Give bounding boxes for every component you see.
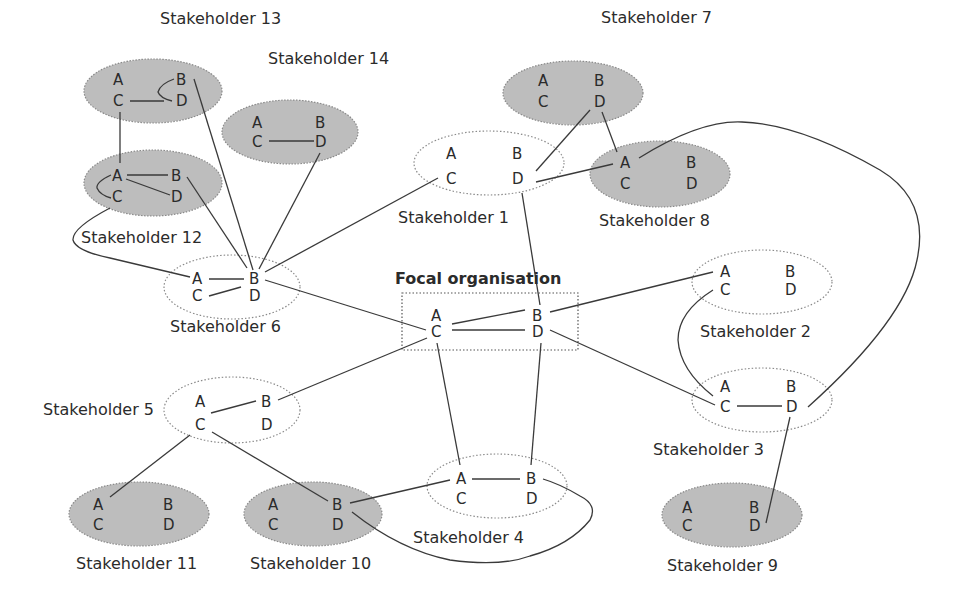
svg-text:D: D xyxy=(176,92,188,110)
svg-text:A: A xyxy=(720,263,731,281)
svg-text:A: A xyxy=(192,270,203,288)
svg-text:D: D xyxy=(249,287,261,305)
svg-text:B: B xyxy=(749,499,759,517)
svg-text:C: C xyxy=(720,281,730,299)
stakeholder-11-ellipse xyxy=(69,482,209,546)
stakeholder-10-label: Stakeholder 10 xyxy=(250,554,371,573)
svg-text:C: C xyxy=(682,517,692,535)
stakeholder-4-letters: A B C D xyxy=(456,470,538,508)
focal-organisation-letters: A B C D xyxy=(431,307,544,341)
stakeholder-12-ellipse xyxy=(84,150,222,216)
stakeholder-4-label: Stakeholder 4 xyxy=(413,528,524,547)
svg-text:B: B xyxy=(785,263,795,281)
svg-text:A: A xyxy=(720,378,731,396)
svg-text:B: B xyxy=(526,470,536,488)
svg-text:C: C xyxy=(620,175,630,193)
stakeholder-6-label: Stakeholder 6 xyxy=(170,317,281,336)
svg-text:D: D xyxy=(512,170,524,188)
stakeholder-14-ellipse xyxy=(222,100,358,164)
svg-text:A: A xyxy=(252,114,263,132)
svg-text:C: C xyxy=(112,188,122,206)
stakeholder-5-ellipse xyxy=(164,377,300,443)
svg-text:D: D xyxy=(163,516,175,534)
svg-text:A: A xyxy=(195,393,206,411)
stakeholder-13-ellipse xyxy=(84,59,222,123)
svg-text:D: D xyxy=(749,517,761,535)
svg-text:C: C xyxy=(113,92,123,110)
svg-text:C: C xyxy=(538,93,548,111)
svg-text:B: B xyxy=(512,145,522,163)
svg-text:A: A xyxy=(538,72,549,90)
stakeholder-network-diagram: A B C D A B C D A B C D A B C D A B C D … xyxy=(0,0,962,614)
stakeholder-8-label: Stakeholder 8 xyxy=(599,211,710,230)
svg-text:B: B xyxy=(171,167,181,185)
stakeholder-11-label: Stakeholder 11 xyxy=(76,554,197,573)
svg-text:C: C xyxy=(446,170,456,188)
stakeholder-1-ellipse xyxy=(414,131,564,195)
stakeholder-1-letters: A B C D xyxy=(446,145,524,188)
svg-text:A: A xyxy=(456,470,467,488)
svg-text:C: C xyxy=(195,416,205,434)
stakeholder-2-ellipse xyxy=(692,250,832,314)
svg-text:A: A xyxy=(113,71,124,89)
stakeholder-3-ellipse xyxy=(692,368,832,432)
svg-text:D: D xyxy=(785,281,797,299)
svg-text:C: C xyxy=(252,133,262,151)
svg-text:D: D xyxy=(171,188,183,206)
svg-text:A: A xyxy=(682,499,693,517)
svg-text:B: B xyxy=(261,393,271,411)
svg-text:B: B xyxy=(332,496,342,514)
svg-text:D: D xyxy=(686,175,698,193)
svg-text:C: C xyxy=(93,516,103,534)
svg-text:A: A xyxy=(446,145,457,163)
stakeholder-2-label: Stakeholder 2 xyxy=(700,322,811,341)
svg-text:A: A xyxy=(112,167,123,185)
svg-text:B: B xyxy=(249,270,259,288)
svg-text:D: D xyxy=(594,93,606,111)
stakeholder-12-label: Stakeholder 12 xyxy=(81,228,202,247)
svg-text:D: D xyxy=(526,490,538,508)
svg-text:B: B xyxy=(163,496,173,514)
stakeholder-5-letters: A B C D xyxy=(195,393,273,434)
svg-text:D: D xyxy=(786,398,798,416)
svg-text:C: C xyxy=(720,398,730,416)
svg-text:C: C xyxy=(431,323,441,341)
svg-text:B: B xyxy=(686,154,696,172)
stakeholder-1-label: Stakeholder 1 xyxy=(398,208,509,227)
svg-text:C: C xyxy=(456,490,466,508)
stakeholder-2-letters: A B C D xyxy=(720,263,797,299)
svg-text:D: D xyxy=(261,416,273,434)
focal-organisation-box xyxy=(402,293,578,350)
svg-text:D: D xyxy=(532,323,544,341)
svg-text:B: B xyxy=(594,72,604,90)
stakeholder-6-letters: A B C D xyxy=(192,270,261,305)
svg-text:A: A xyxy=(93,496,104,514)
stakeholder-3-label: Stakeholder 3 xyxy=(653,440,764,459)
stakeholder-14-label: Stakeholder 14 xyxy=(268,49,389,68)
stakeholder-4-ellipse xyxy=(427,454,567,518)
svg-text:C: C xyxy=(192,287,202,305)
stakeholder-13-label: Stakeholder 13 xyxy=(160,9,281,28)
svg-text:D: D xyxy=(315,133,327,151)
svg-text:B: B xyxy=(315,114,325,132)
stakeholder-9-label: Stakeholder 9 xyxy=(667,556,778,575)
svg-text:B: B xyxy=(786,378,796,396)
stakeholder-8-ellipse xyxy=(590,141,730,207)
svg-text:A: A xyxy=(268,496,279,514)
svg-text:A: A xyxy=(620,154,631,172)
svg-text:B: B xyxy=(176,71,186,89)
stakeholder-7-ellipse xyxy=(503,61,643,125)
stakeholder-7-label: Stakeholder 7 xyxy=(601,8,712,27)
stakeholder-3-letters: A B C D xyxy=(720,378,798,416)
svg-text:C: C xyxy=(268,516,278,534)
svg-text:D: D xyxy=(332,516,344,534)
stakeholder-5-label: Stakeholder 5 xyxy=(43,400,154,419)
focal-organisation-label: Focal organisation xyxy=(395,269,561,288)
